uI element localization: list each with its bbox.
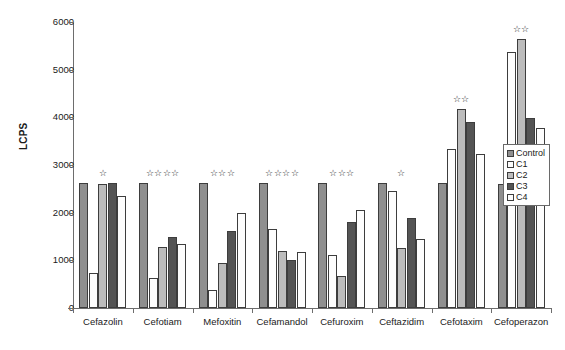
legend-swatch-icon bbox=[507, 183, 514, 190]
bar bbox=[237, 213, 246, 308]
x-axis-category-label: Mefoxitin bbox=[193, 316, 253, 327]
x-axis-category-label: Cefoperazon bbox=[491, 316, 551, 327]
x-tick-mark bbox=[491, 308, 492, 313]
x-axis-category-label: Cefotaxim bbox=[432, 316, 492, 327]
x-axis-category-label: Ceftazidim bbox=[372, 316, 432, 327]
bar-group bbox=[432, 22, 492, 308]
bar bbox=[476, 154, 485, 308]
legend-item[interactable]: Control bbox=[507, 148, 545, 158]
bar-group bbox=[312, 22, 372, 308]
bar bbox=[139, 183, 148, 308]
bar bbox=[227, 231, 236, 308]
bar bbox=[337, 276, 346, 308]
bar bbox=[117, 196, 126, 308]
bar bbox=[177, 244, 186, 308]
x-tick-mark bbox=[133, 308, 134, 313]
bar bbox=[218, 263, 227, 308]
legend-swatch-icon bbox=[507, 172, 514, 179]
bar bbox=[108, 183, 117, 308]
significance-stars: ☆ bbox=[372, 169, 432, 178]
legend-item[interactable]: C3 bbox=[507, 181, 545, 191]
bar bbox=[98, 184, 107, 308]
bar bbox=[149, 278, 158, 308]
bar bbox=[378, 183, 387, 308]
x-axis-category-label: Cefotiam bbox=[133, 316, 193, 327]
legend: ControlC1C2C3C4 bbox=[503, 144, 550, 206]
bar bbox=[318, 183, 327, 308]
significance-stars: ☆☆ bbox=[432, 95, 492, 104]
bar-chart: LCPS 6000500040003000200010000 ☆☆☆☆☆☆☆☆☆… bbox=[0, 0, 565, 350]
significance-stars: ☆☆☆ bbox=[312, 169, 372, 178]
x-tick-mark bbox=[252, 308, 253, 313]
bar bbox=[158, 247, 167, 308]
bar-group bbox=[193, 22, 253, 308]
bar bbox=[278, 251, 287, 308]
x-axis-category-label: Cefazolin bbox=[73, 316, 133, 327]
bar bbox=[356, 210, 365, 308]
legend-swatch-icon bbox=[507, 150, 514, 157]
legend-swatch-icon bbox=[507, 161, 514, 168]
x-tick-mark bbox=[193, 308, 194, 313]
bar-group bbox=[73, 22, 133, 308]
x-tick-mark bbox=[551, 308, 552, 313]
significance-stars: ☆☆☆ bbox=[193, 169, 253, 178]
x-axis-category-label: Cefamandol bbox=[252, 316, 312, 327]
bar bbox=[287, 260, 296, 308]
bar bbox=[297, 252, 306, 308]
significance-stars: ☆☆☆☆ bbox=[252, 169, 312, 178]
x-tick-mark bbox=[432, 308, 433, 313]
significance-stars: ☆ bbox=[73, 169, 133, 178]
bar bbox=[416, 239, 425, 308]
bar bbox=[199, 183, 208, 308]
x-tick-mark bbox=[312, 308, 313, 313]
y-axis-title: LCPS bbox=[18, 123, 29, 150]
bar bbox=[438, 183, 447, 308]
bar bbox=[328, 255, 337, 308]
legend-item-label: C1 bbox=[516, 160, 528, 169]
bar bbox=[466, 122, 475, 308]
bar bbox=[168, 237, 177, 309]
bar bbox=[89, 273, 98, 308]
bar bbox=[347, 222, 356, 308]
significance-stars: ☆☆ bbox=[491, 25, 551, 34]
bar-group bbox=[372, 22, 432, 308]
bar bbox=[457, 109, 466, 308]
legend-swatch-icon bbox=[507, 194, 514, 201]
x-axis-category-label: Cefuroxim bbox=[312, 316, 372, 327]
plot-area: ☆☆☆☆☆☆☆☆☆☆☆☆☆☆☆☆☆☆☆☆ bbox=[73, 22, 551, 308]
bar bbox=[447, 149, 456, 308]
bar bbox=[208, 290, 217, 308]
legend-item-label: C2 bbox=[516, 171, 528, 180]
legend-item-label: C4 bbox=[516, 193, 528, 202]
x-tick-mark bbox=[372, 308, 373, 313]
bar bbox=[397, 248, 406, 308]
legend-item-label: Control bbox=[516, 149, 545, 158]
legend-item[interactable]: C1 bbox=[507, 159, 545, 169]
legend-item[interactable]: C2 bbox=[507, 170, 545, 180]
x-tick-mark bbox=[73, 308, 74, 313]
significance-stars: ☆☆☆☆ bbox=[133, 169, 193, 178]
bar bbox=[79, 183, 88, 308]
bar bbox=[388, 191, 397, 308]
bar bbox=[259, 183, 268, 308]
bar-group bbox=[133, 22, 193, 308]
bar bbox=[268, 229, 277, 308]
legend-item-label: C3 bbox=[516, 182, 528, 191]
legend-item[interactable]: C4 bbox=[507, 192, 545, 202]
bar-group bbox=[252, 22, 312, 308]
bar bbox=[407, 218, 416, 308]
